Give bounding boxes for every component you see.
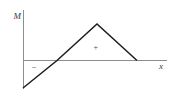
bending-moment-figure: M x – + [0,0,176,98]
diagram-canvas: M x – + [0,0,176,98]
horizontal-axis-label: x [158,61,163,71]
negative-region-label: – [31,62,37,71]
moment-curve [23,24,137,88]
vertical-axis-label: M [13,11,22,21]
positive-region-label: + [94,43,99,52]
